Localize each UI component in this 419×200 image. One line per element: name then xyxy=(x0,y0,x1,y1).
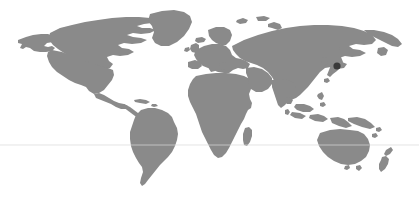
world-map-figure xyxy=(0,0,419,200)
marker-group xyxy=(333,62,340,69)
world-map-canvas xyxy=(0,0,419,200)
japan-marker[interactable] xyxy=(333,62,340,69)
